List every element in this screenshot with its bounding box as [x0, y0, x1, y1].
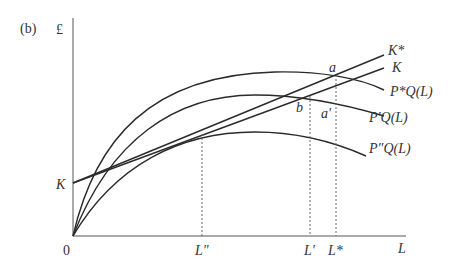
- p-double-prime-label: P"Q(L): [368, 141, 411, 157]
- point-a-prime-label: a': [321, 106, 332, 121]
- line-k-star: [73, 55, 384, 183]
- curve-p-double-prime: [73, 132, 366, 236]
- y-axis-label: £: [56, 22, 63, 37]
- line-k: [73, 68, 384, 183]
- origin-label: 0: [63, 243, 70, 258]
- k-star-label: K*: [387, 43, 404, 58]
- p-star-label: P*Q(L): [389, 84, 433, 100]
- k-label: K: [391, 60, 402, 75]
- point-b-label: b: [296, 100, 303, 115]
- tick-l-star: L*: [327, 243, 343, 258]
- tick-l-prime: L': [303, 243, 316, 258]
- x-axis-label: L: [397, 241, 406, 256]
- diagram: (b) £ K 0 L K* K P*Q(L) P'Q(L) P"Q(L) a …: [0, 0, 449, 268]
- p-prime-label: P'Q(L): [368, 110, 408, 126]
- k-intercept-label: K: [55, 177, 66, 192]
- tick-l-double-prime: L": [194, 243, 209, 258]
- panel-label: (b): [20, 21, 37, 37]
- point-a-label: a: [329, 60, 336, 75]
